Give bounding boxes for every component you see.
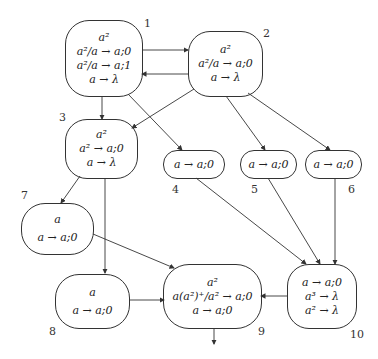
- node-7-number: 7: [21, 189, 28, 202]
- node-7-line-1: a: [54, 213, 61, 227]
- state-node-2: a² a²/a → a;0 a → λ: [188, 31, 263, 97]
- node-5-line-1: a → a;0: [248, 158, 288, 172]
- state-node-1: a² a²/a → a;0 a²/a → a;1 a → λ: [65, 20, 143, 97]
- node-9-number: 9: [258, 325, 265, 338]
- node-4-number: 4: [172, 183, 179, 196]
- node-4-line-1: a → a;0: [174, 158, 214, 172]
- state-node-3: a² a² → a;0 a → λ: [65, 119, 138, 179]
- node-3-line-1: a²: [96, 128, 107, 142]
- node-2-line-2: a²/a → a;0: [198, 57, 253, 71]
- node-1-number: 1: [144, 17, 151, 30]
- edge-2-5: [226, 96, 265, 150]
- node-3-line-3: a → λ: [87, 156, 117, 170]
- node-2-line-3: a → λ: [211, 71, 241, 85]
- node-8-line-2: a → a;0: [72, 304, 112, 318]
- state-node-10: a → a;0 a³ → λ a² → λ: [287, 264, 357, 329]
- state-node-5: a → a;0: [240, 150, 297, 179]
- node-6-number: 6: [348, 183, 355, 196]
- node-3-line-2: a² → a;0: [79, 142, 123, 156]
- node-9-line-2: a(a²)⁺/a² → a;0: [172, 290, 252, 304]
- node-7-line-2: a → a;0: [37, 231, 77, 245]
- node-1-line-2: a²/a → a;0: [77, 45, 132, 59]
- node-2-line-1: a²: [220, 43, 231, 57]
- node-1-line-4: a → λ: [89, 73, 119, 87]
- edge-5-10: [268, 178, 320, 264]
- node-2-number: 2: [263, 27, 270, 40]
- node-9-line-3: a → a;0: [192, 304, 232, 318]
- node-10-line-2: a³ → λ: [305, 290, 339, 304]
- state-node-7: a a → a;0: [21, 203, 94, 255]
- node-5-number: 5: [251, 183, 258, 196]
- node-8-line-1: a: [89, 286, 96, 300]
- edge-3-7: [61, 176, 80, 203]
- node-10-line-1: a → a;0: [302, 276, 342, 290]
- node-9-line-1: a²: [207, 276, 218, 290]
- node-1-line-1: a²: [99, 31, 110, 45]
- state-node-8: a a → a;0: [55, 274, 130, 329]
- edge-2-3: [132, 89, 194, 128]
- state-node-6: a → a;0: [305, 150, 362, 179]
- node-10-line-3: a² → λ: [305, 304, 339, 318]
- node-6-line-1: a → a;0: [313, 158, 353, 172]
- state-node-9: a² a(a²)⁺/a² → a;0 a → a;0: [163, 264, 262, 329]
- node-10-number: 10: [350, 328, 364, 341]
- node-3-number: 3: [59, 111, 66, 124]
- node-8-number: 8: [49, 325, 56, 338]
- state-node-4: a → a;0: [163, 150, 225, 179]
- edge-2-6: [248, 93, 330, 150]
- node-1-line-3: a²/a → a;1: [77, 59, 132, 73]
